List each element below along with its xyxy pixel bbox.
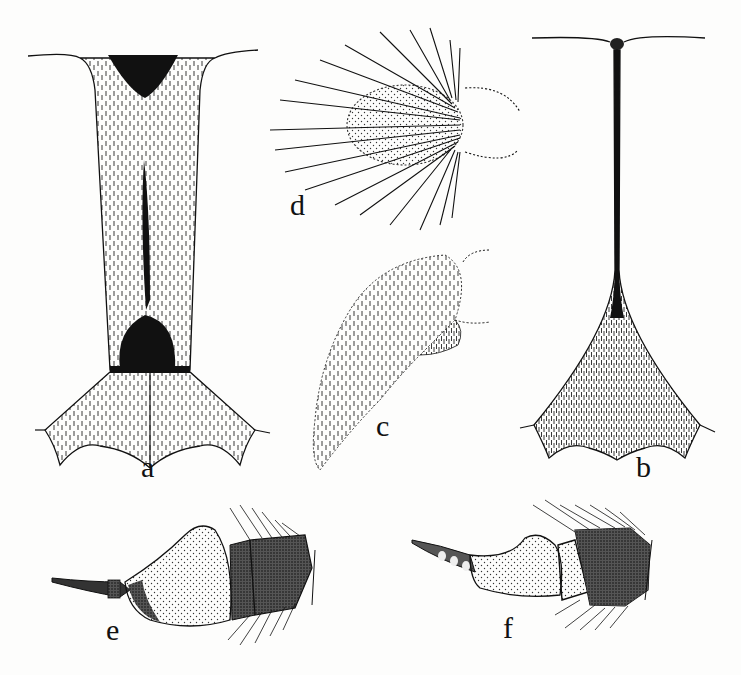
figure-label-d: d (290, 190, 305, 220)
figure-b (520, 37, 715, 460)
figure-label-b: b (636, 452, 651, 482)
illustration-plate: a b c d e f (0, 0, 741, 675)
figure-d (270, 28, 520, 230)
figure-c (313, 250, 490, 470)
figure-f (412, 500, 652, 630)
figure-label-a: a (141, 452, 154, 482)
figure-label-f: f (503, 613, 513, 643)
figure-e (52, 505, 315, 645)
plate-drawings (0, 0, 741, 675)
figure-a (28, 50, 270, 468)
figure-label-c: c (376, 411, 389, 441)
figure-label-e: e (106, 615, 119, 645)
